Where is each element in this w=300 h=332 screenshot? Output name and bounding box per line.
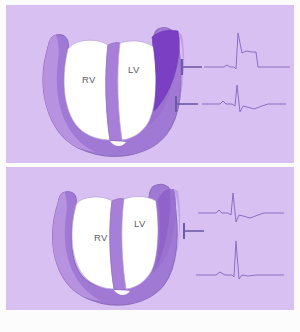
normal-heart-illustration: RV LV bbox=[6, 167, 294, 310]
normal-heart-panel: RV LV bbox=[6, 167, 294, 310]
figure-root: RV LV bbox=[0, 0, 300, 332]
lv-label: LV bbox=[134, 218, 146, 229]
infarcted-heart-illustration: RV LV bbox=[6, 5, 294, 163]
rv-label: RV bbox=[82, 74, 96, 85]
lv-label: LV bbox=[128, 64, 140, 75]
infarcted-heart-panel: RV LV bbox=[6, 5, 294, 163]
rv-label: RV bbox=[94, 232, 108, 243]
